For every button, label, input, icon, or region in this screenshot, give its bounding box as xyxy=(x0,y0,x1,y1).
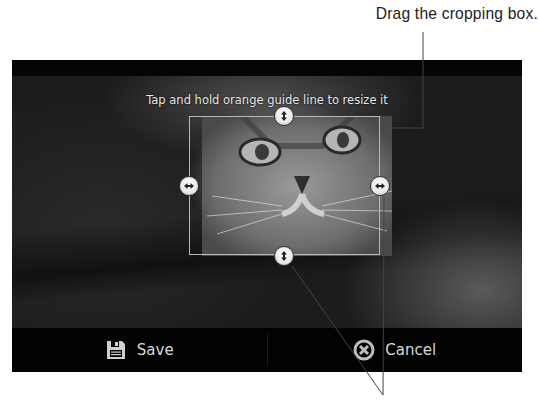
action-bar: Save Cancel xyxy=(12,328,522,372)
floppy-disk-icon xyxy=(105,339,127,361)
crop-handle-bottom[interactable] xyxy=(274,246,294,266)
horizontal-resize-icon xyxy=(374,180,386,192)
cancel-label: Cancel xyxy=(385,341,436,359)
photo-top-band xyxy=(12,60,522,76)
crop-screen: Tap and hold orange guide line to resize… xyxy=(12,60,522,372)
crop-handle-left[interactable] xyxy=(179,176,199,196)
cat-photo: Tap and hold orange guide line to resize… xyxy=(12,60,522,328)
save-button[interactable]: Save xyxy=(12,328,267,372)
cancel-button[interactable]: Cancel xyxy=(268,328,523,372)
vertical-resize-icon xyxy=(278,110,290,122)
cropping-box[interactable] xyxy=(189,116,380,255)
vertical-resize-icon xyxy=(278,250,290,262)
save-label: Save xyxy=(137,341,174,359)
resize-hint-text: Tap and hold orange guide line to resize… xyxy=(12,93,522,107)
cancel-x-circle-icon xyxy=(353,339,375,361)
horizontal-resize-icon xyxy=(183,180,195,192)
callout-drag-cropping-box: Drag the cropping box. xyxy=(319,4,538,24)
crop-handle-right[interactable] xyxy=(370,176,390,196)
crop-handle-top[interactable] xyxy=(274,106,294,126)
